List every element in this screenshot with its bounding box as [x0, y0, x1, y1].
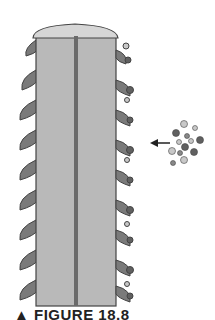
figure-caption: ▲ FIGURE 18.8: [14, 306, 130, 320]
left-projections: [20, 40, 38, 300]
cap: [33, 24, 118, 38]
figure-diagram: [0, 0, 215, 320]
right-projections: [116, 43, 134, 302]
center-line: [74, 36, 78, 306]
leftward-arrow: [150, 139, 170, 147]
particle-cluster: [169, 121, 204, 166]
